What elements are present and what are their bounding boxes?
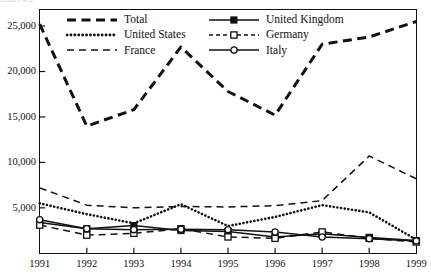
legend-item-label: France (118, 45, 155, 57)
x-tick-label: 1999 (395, 259, 431, 270)
legend-item-label: Italy (260, 45, 287, 57)
y-tick-label: 20,000 (0, 66, 36, 77)
x-tick-label: 1991 (19, 259, 61, 270)
y-tick-label: 10,000 (0, 157, 36, 168)
data-point-marker (84, 226, 90, 232)
x-tick-label: 1993 (113, 259, 155, 270)
data-point-marker (84, 232, 90, 238)
legend-item-label: United States (118, 29, 186, 41)
data-point-marker (37, 217, 43, 223)
legend-item-united-kingdom[interactable]: United Kingdom (208, 12, 356, 27)
legend-item-united-states[interactable]: United States (66, 27, 208, 42)
data-point-marker (272, 235, 278, 241)
data-point-marker (319, 234, 325, 240)
legend-swatch-icon (208, 29, 260, 41)
legend-item-germany[interactable]: Germany (208, 27, 356, 42)
data-point-marker (272, 229, 278, 235)
data-point-marker (366, 236, 372, 242)
x-tick-label: 1994 (160, 259, 202, 270)
legend-swatch-icon (66, 29, 118, 41)
chart-legend: TotalUnited KingdomUnited StatesGermanyF… (66, 12, 356, 58)
x-tick-label: 1996 (254, 259, 296, 270)
x-tick-label: 1997 (301, 259, 343, 270)
legend-item-italy[interactable]: Italy (208, 43, 356, 58)
legend-swatch-icon (66, 44, 118, 56)
data-point-marker (413, 238, 419, 244)
data-point-marker (225, 234, 231, 240)
data-point-marker (131, 227, 137, 233)
legend-item-total[interactable]: Total (66, 12, 208, 27)
x-tick-label: 1998 (348, 259, 390, 270)
x-tick-label: 1992 (66, 259, 108, 270)
legend-swatch-icon (66, 14, 118, 26)
legend-swatch-icon (208, 44, 260, 56)
legend-item-label: United Kingdom (260, 14, 344, 26)
legend-item-label: Germany (260, 29, 309, 41)
y-tick-label: 25,000 (0, 21, 36, 32)
x-tick-label: 1995 (207, 259, 249, 270)
series-france (40, 156, 417, 208)
data-point-marker (225, 227, 231, 233)
legend-item-label: Total (118, 14, 147, 26)
y-tick-label: 15,000 (0, 112, 36, 123)
data-point-marker (178, 226, 184, 232)
legend-swatch-icon (208, 14, 260, 26)
y-tick-label: 5,000 (0, 203, 36, 214)
legend-item-france[interactable]: France (66, 43, 208, 58)
